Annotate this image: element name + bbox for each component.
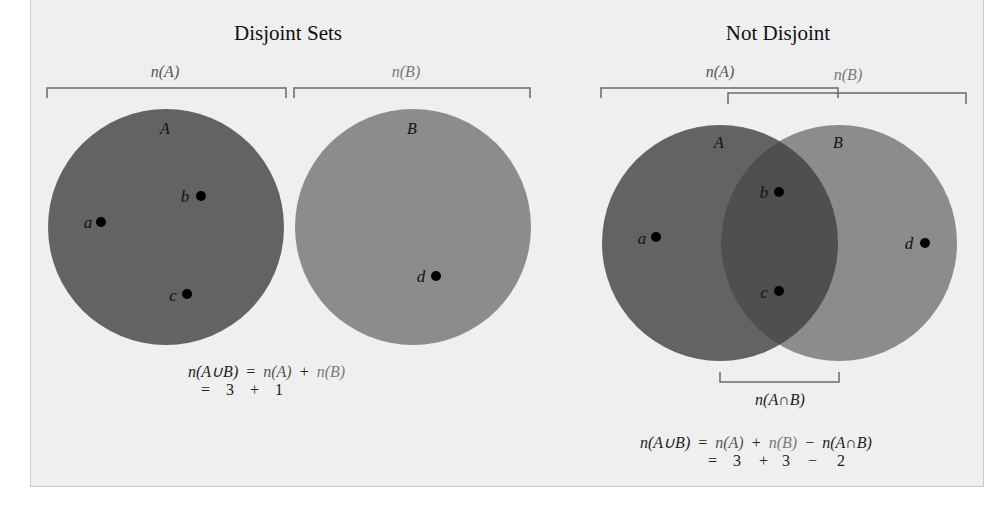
equation-line-2: = 3 + 3 − 2 [708,452,845,469]
venn-diagram-figure: Disjoint Sets n(A) n(B) A B a b c d n(A∪… [0,0,1006,515]
point-a-label: a [84,213,93,232]
eq2-minus: − [808,452,817,469]
point-d-dot [920,238,930,248]
eq2-value-2: 1 [275,381,283,398]
point-a-label: a [638,229,647,248]
eq2-equals: = [708,452,717,469]
point-b-label: b [760,183,769,202]
eq-plus: + [300,363,309,380]
disjoint-sets-diagram: Disjoint Sets n(A) n(B) A B a b c d n(A∪… [47,21,531,398]
point-b-dot [774,187,784,197]
eq2-value-1: 3 [733,452,741,469]
point-a-dot [651,232,661,242]
point-d-label: d [905,234,914,253]
set-b-label: B [833,134,843,151]
set-b-label: B [407,120,417,137]
bracket-n-a [47,88,286,98]
bracket-label-n-a: n(A) [151,63,179,81]
eq2-value-1: 3 [226,381,234,398]
eq2-plus: + [250,381,259,398]
eq-equals: = [698,434,707,451]
eq-term-n-b: n(B) [769,434,797,452]
set-a-label: A [713,134,724,151]
eq-plus: + [752,434,761,451]
intersection-label: n(A∩B) [755,391,805,409]
eq2-value-2: 3 [782,452,790,469]
bracket-label-n-b: n(B) [834,66,862,84]
equation-line-1: n(A∪B) = n(A) + n(B) − n(A∩B) [640,434,872,452]
point-c-label: c [760,283,768,302]
set-b-circle [295,109,531,345]
bracket-intersection [720,372,839,382]
bracket-label-n-a: n(A) [706,63,734,81]
point-b-label: b [181,187,190,206]
point-c-dot [774,286,784,296]
bracket-n-b [294,88,530,98]
eq2-equals: = [201,381,210,398]
eq-term-n-b: n(B) [317,363,345,381]
eq-term-n-a: n(A) [263,363,291,381]
not-disjoint-union-equation: n(A∪B) = n(A) + n(B) − n(A∩B) = 3 + 3 − … [640,434,872,469]
point-b-dot [196,191,206,201]
eq2-plus: + [759,452,768,469]
point-c-label: c [169,286,177,305]
point-d-label: d [417,267,426,286]
set-a-label: A [159,120,170,137]
point-c-dot [182,289,192,299]
eq-equals: = [246,363,255,380]
disjoint-union-equation: n(A∪B) = n(A) + n(B) = 3 + 1 [188,363,345,398]
equation-line-1: n(A∪B) = n(A) + n(B) [188,363,345,381]
bracket-n-b [728,93,966,104]
eq-minus: − [805,434,814,451]
not-disjoint-diagram: Not Disjoint n(A) n(B) A B a b c d n(A∩B… [601,21,966,469]
disjoint-title: Disjoint Sets [234,21,342,45]
equation-line-2: = 3 + 1 [201,381,283,398]
not-disjoint-title: Not Disjoint [726,21,831,45]
eq-lhs: n(A∪B) [188,363,238,381]
bracket-label-n-b: n(B) [392,63,420,81]
eq-term-n-a: n(A) [715,434,743,452]
eq2-value-3: 2 [837,452,845,469]
point-d-dot [431,271,441,281]
point-a-dot [96,217,106,227]
eq-lhs: n(A∪B) [640,434,690,452]
eq-term-n-a-intersect-b: n(A∩B) [822,434,872,452]
